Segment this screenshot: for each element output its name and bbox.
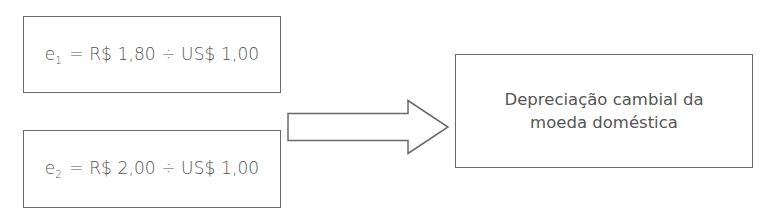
subscript-2: 2: [55, 169, 61, 180]
right-block-arrow-icon: [285, 96, 453, 158]
subscript-1: 1: [55, 55, 61, 66]
exchange-rate-equation-1: e1 = R$ 1,80 ÷ US$ 1,00: [45, 44, 259, 66]
result-box: Depreciação cambial da moeda doméstica: [455, 54, 753, 168]
exchange-rate-box-1: e1 = R$ 1,80 ÷ US$ 1,00: [23, 16, 281, 93]
exchange-rate-box-2: e2 = R$ 2,00 ÷ US$ 1,00: [23, 130, 281, 208]
result-text: Depreciação cambial da moeda doméstica: [504, 88, 703, 134]
variable-e: e: [45, 44, 56, 64]
expression-1: = R$ 1,80 ÷ US$ 1,00: [69, 44, 259, 64]
result-line-2: moeda doméstica: [504, 111, 703, 134]
exchange-rate-equation-2: e2 = R$ 2,00 ÷ US$ 1,00: [45, 158, 259, 180]
result-line-1: Depreciação cambial da: [504, 88, 703, 111]
expression-2: = R$ 2,00 ÷ US$ 1,00: [69, 158, 259, 178]
variable-e: e: [45, 158, 56, 178]
